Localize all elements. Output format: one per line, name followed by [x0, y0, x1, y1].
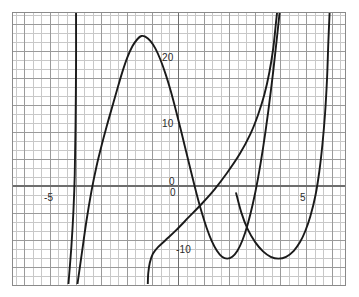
origin-label-0: 0: [170, 188, 176, 198]
y-tick-label-10: 10: [162, 119, 174, 129]
y-tick-label-0: 0: [169, 177, 175, 187]
curve-steep-left-branch: [68, 12, 76, 285]
y-tick-label-neg10: -10: [176, 245, 191, 255]
x-tick-label-5: 5: [300, 193, 306, 203]
data-curves: [68, 12, 329, 285]
x-tick-label-neg5: -5: [44, 193, 53, 203]
graph-figure: -5 5 20 10 0 0 -10: [0, 0, 359, 297]
y-tick-label-20: 20: [162, 53, 174, 63]
